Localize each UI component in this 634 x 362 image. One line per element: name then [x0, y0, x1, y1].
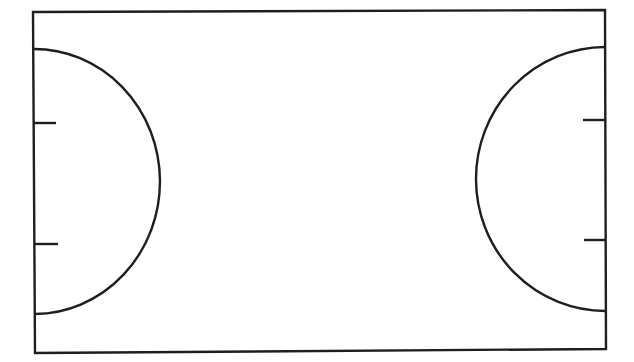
right-shooting-circle: [476, 47, 606, 311]
left-shooting-circle: [33, 49, 160, 314]
court-diagram: [0, 0, 634, 362]
court-boundary: [33, 10, 606, 353]
